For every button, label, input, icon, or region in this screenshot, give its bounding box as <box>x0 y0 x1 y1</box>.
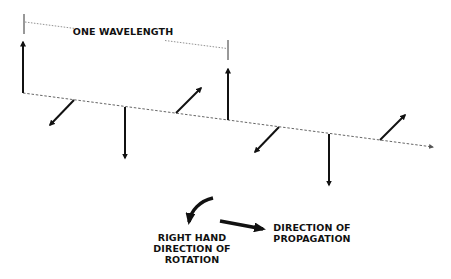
wavelength-dimension <box>24 14 228 60</box>
rotation-label-line-3: ROTATION <box>150 254 234 265</box>
dimension-line-right <box>165 41 227 49</box>
rotation-arrow-icon <box>189 198 213 222</box>
propagation-label-line-1: DIRECTION OF <box>270 222 354 233</box>
wavelength-label: ONE WAVELENGTH <box>68 26 178 37</box>
propagation-label-line-2: PROPAGATION <box>270 233 354 244</box>
propagation-label: DIRECTION OF PROPAGATION <box>270 222 354 244</box>
rotation-label-line-2: DIRECTION OF <box>150 243 234 254</box>
vector-up-right-1 <box>176 88 201 113</box>
vector-down-left-1 <box>50 100 74 125</box>
rotation-label-line-1: RIGHT HAND <box>150 232 234 243</box>
rotation-label: RIGHT HAND DIRECTION OF ROTATION <box>150 232 234 265</box>
vector-up-right-2 <box>380 115 405 140</box>
vector-down-left-2 <box>255 127 279 152</box>
propagation-arrow-icon <box>220 221 263 229</box>
field-vectors <box>23 42 405 185</box>
